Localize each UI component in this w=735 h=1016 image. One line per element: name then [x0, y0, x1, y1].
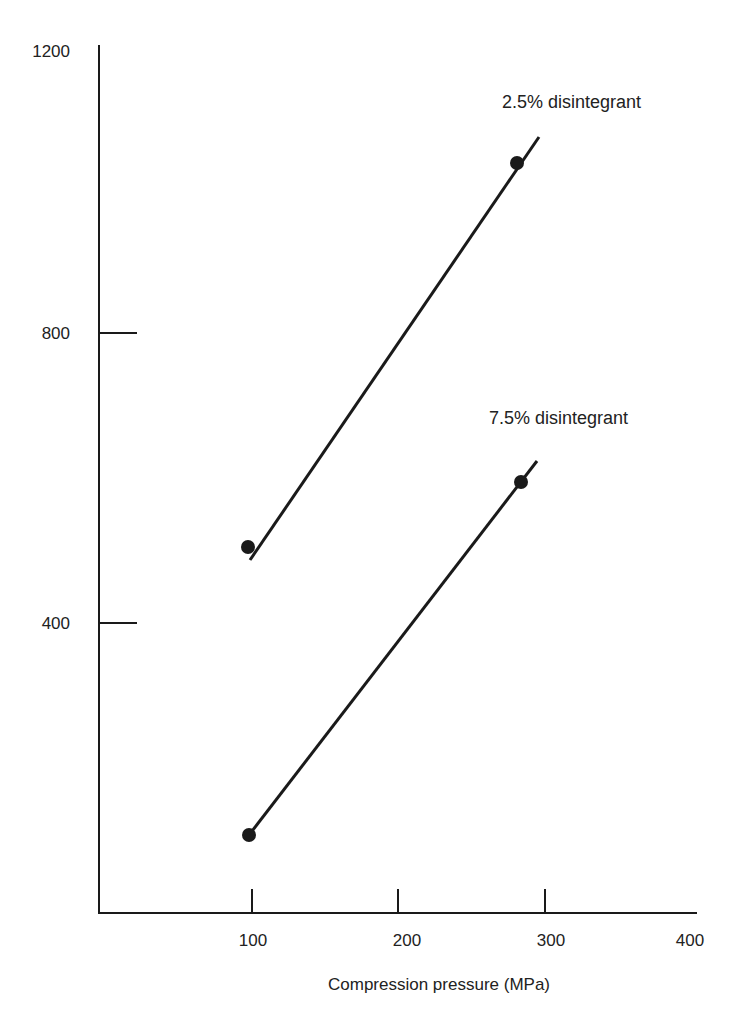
series-label: 7.5% disintegrant: [489, 408, 628, 428]
series-line: [250, 137, 539, 560]
series-7-5-percent: 7.5% disintegrant: [242, 408, 628, 842]
series-2-5-percent: 2.5% disintegrant: [241, 92, 641, 560]
x-tick-label-400: 400: [676, 931, 704, 950]
data-point: [514, 475, 528, 489]
series-label: 2.5% disintegrant: [502, 92, 641, 112]
data-point: [510, 156, 524, 170]
y-tick-label-1200: 1200: [32, 42, 70, 61]
x-tick-label-200: 200: [393, 931, 421, 950]
data-point: [241, 540, 255, 554]
y-tick-label-400: 400: [42, 614, 70, 633]
x-tick-label-100: 100: [239, 931, 267, 950]
series-line: [249, 461, 537, 835]
data-point: [242, 828, 256, 842]
x-tick-label-300: 300: [537, 931, 565, 950]
chart: 1200 800 400 100 200 300 400 Compression…: [0, 0, 735, 1016]
y-tick-label-800: 800: [42, 324, 70, 343]
x-axis-title: Compression pressure (MPa): [328, 975, 550, 994]
